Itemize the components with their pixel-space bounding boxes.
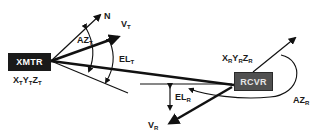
transmitter-azimuth-label: AZT <box>77 36 93 45</box>
transmitter-position-label: XTYTZT <box>13 76 42 85</box>
receiver-velocity-label: VR <box>148 121 158 130</box>
transmitter-box-label: XMTR <box>16 57 42 67</box>
receiver-position-label: XRYRZR <box>222 54 253 63</box>
receiver-position-vector-arrow <box>253 38 295 72</box>
transmitter-elevation-label: ELT <box>119 55 134 64</box>
north-label: N <box>104 12 111 21</box>
receiver-box-label: RCVR <box>240 77 266 87</box>
receiver-elevation-label: ELR <box>175 93 191 102</box>
transmitter-velocity-label: VT <box>121 20 131 29</box>
receiver-box: RCVR <box>234 72 273 91</box>
transmitter-box: XMTR <box>8 53 51 71</box>
transmitter-elevation-arc <box>106 42 113 82</box>
transmitter-receiver-geometry-diagram: XMTR RCVR XTYTZT N VT AZT ELT XRYRZR AZR… <box>0 0 314 137</box>
receiver-azimuth-label: AZR <box>293 96 309 105</box>
